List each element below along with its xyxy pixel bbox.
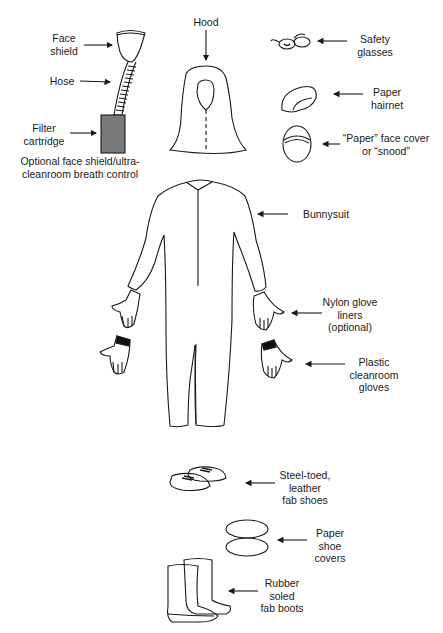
caption-breath-control: Optional face shield/ultra- cleanroom br… (10, 155, 150, 180)
label-face-cover: “Paper” face cover or “snood” (336, 132, 436, 157)
label-hood: Hood (186, 16, 226, 29)
cleanroom-glove-left-icon (100, 336, 130, 374)
label-fab-shoes: Steel-toed, leather fab shoes (274, 469, 336, 507)
label-filter-cartridge: Filter cartridge (18, 122, 70, 147)
label-plastic-gloves: Plastic cleanroom gloves (344, 356, 404, 394)
hood-icon (170, 66, 246, 154)
label-fab-boots: Rubber soled fab boots (256, 577, 308, 615)
label-bunnysuit: Bunnysuit (296, 208, 356, 221)
glove-liner-left-icon (112, 290, 140, 328)
shoe-covers-icon (226, 520, 268, 556)
label-paper-hairnet: Paper hairnet (365, 86, 409, 111)
label-safety-glasses: Safety glasses (350, 33, 400, 58)
face-cover-icon (283, 126, 311, 162)
label-hose: Hose (44, 75, 80, 88)
fab-shoes-icon (170, 467, 226, 491)
label-nylon-glove-liners: Nylon glove liners (optional) (318, 296, 382, 334)
cleanroom-glove-right-icon (261, 340, 292, 378)
paper-hairnet-icon (282, 86, 316, 112)
face-shield-icon (117, 31, 145, 63)
safety-glasses-icon (271, 34, 310, 49)
glove-liner-right-icon (253, 292, 284, 330)
bunnysuit-icon (128, 180, 266, 427)
label-shoe-covers: Paper shoe covers (308, 527, 352, 565)
label-face-shield: Face shield (44, 32, 84, 57)
filter-cartridge-icon (101, 115, 125, 153)
fab-boots-icon (168, 559, 231, 623)
hose-icon (114, 62, 136, 115)
